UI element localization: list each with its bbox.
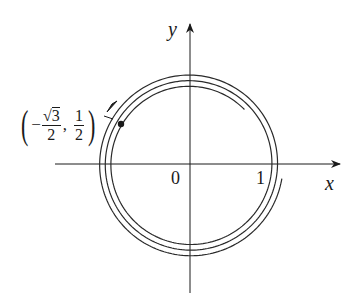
direction-arrow-icon	[107, 101, 117, 112]
x-numerator: √3	[42, 107, 61, 126]
point-coordinate-label: ( − √3 2 , 1 2 )	[18, 103, 98, 147]
y-numerator: 1	[74, 107, 84, 126]
minus-sign: −	[31, 115, 41, 135]
y-fraction: 1 2	[74, 107, 84, 144]
origin-label: 0	[171, 168, 180, 189]
spiral-curve	[100, 75, 282, 256]
right-paren: )	[88, 103, 95, 147]
x-fraction: √3 2	[42, 107, 61, 144]
leader-line	[104, 116, 113, 119]
left-paren: (	[21, 103, 28, 147]
y-denominator: 2	[75, 126, 83, 144]
x-tick-label-1: 1	[256, 168, 265, 189]
point-marker	[118, 121, 124, 127]
comma: ,	[63, 115, 67, 135]
spiral-diagram	[0, 0, 355, 308]
x-axis-label: x	[325, 172, 334, 195]
x-denominator: 2	[47, 126, 55, 144]
y-axis-label: y	[168, 18, 177, 41]
